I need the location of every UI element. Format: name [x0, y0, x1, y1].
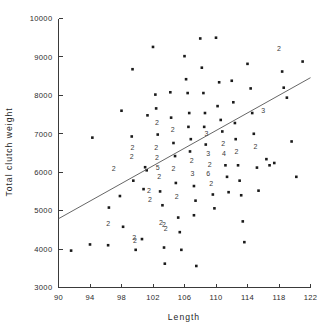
- data-point: [218, 81, 221, 84]
- data-point: [91, 136, 94, 139]
- data-point: [281, 70, 284, 73]
- data-point: [240, 194, 243, 197]
- data-point: [212, 193, 215, 196]
- x-axis-title: Length: [168, 312, 200, 322]
- data-point-count-label: 2: [172, 165, 176, 172]
- y-tick-label: 6000: [34, 168, 52, 177]
- data-point: [201, 66, 204, 69]
- data-point: [180, 249, 183, 252]
- data-point: [70, 249, 73, 252]
- data-point: [216, 105, 219, 108]
- data-point: [169, 91, 172, 94]
- data-point: [156, 133, 159, 136]
- data-point-count-label: 6: [206, 170, 210, 177]
- data-point-count-label: 2: [130, 153, 134, 160]
- data-point-count-label: 2: [157, 173, 161, 180]
- data-point: [195, 265, 198, 268]
- data-point: [202, 92, 205, 95]
- data-point-count-label: 2: [154, 144, 158, 151]
- data-point: [256, 166, 259, 169]
- data-point: [243, 241, 246, 244]
- data-point: [89, 243, 92, 246]
- y-tick-label: 9000: [34, 53, 52, 62]
- y-tick-label: 7000: [34, 130, 52, 139]
- data-point: [159, 190, 162, 193]
- data-point: [142, 188, 145, 191]
- scatter-plot-figure: 300040005000600070008000900010000 909498…: [0, 0, 329, 328]
- data-point: [188, 112, 191, 115]
- data-point: [232, 101, 235, 104]
- data-point: [146, 114, 149, 117]
- data-point-count-label: 2: [208, 161, 212, 168]
- axis-lines: [59, 19, 311, 288]
- data-point: [175, 182, 178, 185]
- data-point-count-label: 2: [253, 143, 257, 150]
- data-point: [204, 143, 207, 146]
- data-point: [290, 140, 293, 143]
- data-point: [224, 164, 227, 167]
- data-point: [221, 130, 224, 133]
- data-point-count-label: 2: [133, 237, 137, 244]
- data-point: [172, 142, 175, 145]
- data-point: [187, 126, 190, 129]
- data-point: [190, 138, 193, 141]
- data-point: [226, 176, 229, 179]
- x-tick-label: 102: [146, 293, 160, 302]
- data-point-count-label: 2: [164, 225, 168, 232]
- data-point: [132, 179, 135, 182]
- y-tick-label: 10000: [30, 14, 53, 23]
- y-tick-label: 5000: [34, 206, 52, 215]
- data-point-count-label: 2: [148, 196, 152, 203]
- data-point: [161, 204, 164, 207]
- x-tick-label: 106: [178, 293, 192, 302]
- data-point-count-label: 3: [190, 170, 194, 177]
- data-point: [286, 96, 289, 99]
- data-point: [257, 189, 260, 192]
- data-point: [164, 262, 167, 265]
- data-point: [273, 162, 276, 165]
- data-point: [174, 155, 177, 158]
- x-tick-label: 98: [117, 293, 126, 302]
- data-point-count-label: 2: [209, 180, 213, 187]
- data-point: [122, 225, 125, 228]
- data-point: [183, 55, 186, 58]
- data-point-count-label: 2: [190, 157, 194, 164]
- data-point: [282, 86, 285, 89]
- data-point: [199, 37, 202, 40]
- data-point-count-label: 2: [277, 45, 281, 52]
- data-point: [186, 92, 189, 95]
- data-point: [227, 191, 230, 194]
- data-point: [249, 87, 252, 90]
- data-point: [253, 132, 256, 135]
- data-point-count-label: 2: [155, 119, 159, 126]
- x-tick-label: 122: [304, 293, 318, 302]
- data-point-count-label: 2: [175, 193, 179, 200]
- y-tick-label: 4000: [34, 245, 52, 254]
- data-point: [144, 166, 147, 169]
- data-point: [234, 122, 237, 125]
- x-tick-label: 94: [85, 293, 94, 302]
- data-point: [251, 112, 254, 115]
- data-point-count-label: 2: [147, 187, 151, 194]
- data-point-count-label: 2: [221, 140, 225, 147]
- x-axis-ticks: 909498102106110114118122: [54, 284, 317, 302]
- data-point: [215, 36, 218, 39]
- data-point: [237, 164, 240, 167]
- data-point-count-label: 2: [112, 165, 116, 172]
- data-point-group: 22222222222522222222333262242232: [70, 36, 304, 267]
- data-point: [108, 206, 111, 209]
- data-point: [230, 79, 233, 82]
- data-point: [154, 93, 157, 96]
- data-point: [203, 126, 206, 129]
- chart-canvas: 300040005000600070008000900010000 909498…: [0, 0, 329, 328]
- data-point-count-label: 2: [235, 148, 239, 155]
- data-point: [193, 185, 196, 188]
- x-tick-label: 114: [241, 293, 254, 302]
- data-point: [178, 231, 181, 234]
- data-point: [268, 164, 271, 167]
- data-point: [234, 138, 237, 141]
- data-point-count-label: 5: [156, 164, 160, 171]
- data-point-count-label: 4: [222, 150, 226, 157]
- x-tick-label: 90: [54, 293, 63, 302]
- data-point: [213, 207, 216, 210]
